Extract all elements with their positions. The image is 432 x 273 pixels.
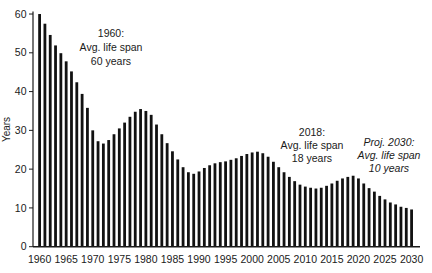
- bar-1997: [235, 158, 238, 246]
- x-tick-label-1975: 1975: [108, 253, 132, 265]
- bar-1965: [65, 61, 68, 246]
- bar-2015: [330, 183, 333, 246]
- bar-2001: [256, 152, 259, 247]
- bar-2018: [346, 177, 349, 247]
- annotation-proj-2030: Proj. 2030: Avg. life span 10 years: [358, 136, 421, 175]
- bar-2003: [267, 157, 270, 247]
- annotation-line: Avg. life span: [281, 139, 344, 152]
- annotation-line: 2018:: [281, 126, 344, 139]
- annotation-line: 18 years: [281, 152, 344, 165]
- bar-1999: [245, 154, 248, 247]
- bar-1978: [134, 112, 137, 247]
- bar-1994: [219, 162, 222, 247]
- bar-2027: [394, 204, 397, 246]
- bar-2009: [299, 185, 302, 247]
- annotation-line: 1960:: [80, 26, 143, 40]
- bar-1996: [230, 160, 233, 247]
- bar-1962: [49, 35, 52, 247]
- bar-2007: [288, 177, 291, 247]
- bar-2019: [352, 176, 355, 247]
- bar-1984: [166, 143, 169, 247]
- bar-2026: [389, 202, 392, 246]
- bar-1964: [59, 53, 62, 247]
- bar-2008: [293, 181, 296, 247]
- bar-1966: [70, 71, 73, 246]
- x-tick-label-2005: 2005: [267, 253, 291, 265]
- bar-1961: [44, 24, 47, 247]
- y-tick-label-0: 0: [21, 240, 27, 252]
- company-lifespan-bar-chart: 0102030405060196019651970197519801985199…: [0, 0, 432, 273]
- bar-1975: [118, 128, 121, 246]
- x-tick-label-1985: 1985: [161, 253, 185, 265]
- bar-1969: [86, 108, 89, 247]
- bar-2020: [357, 178, 360, 246]
- y-tick-label-20: 20: [15, 163, 27, 175]
- bar-2017: [341, 178, 344, 246]
- x-tick-label-1960: 1960: [28, 253, 52, 265]
- bar-1988: [187, 172, 190, 246]
- bar-1974: [113, 134, 116, 246]
- bar-1970: [91, 130, 94, 246]
- annotation-1960: 1960: Avg. life span 60 years: [80, 26, 143, 68]
- bar-2024: [378, 196, 381, 247]
- bar-2022: [368, 188, 371, 247]
- bar-2011: [309, 188, 312, 247]
- bar-1991: [203, 168, 206, 247]
- bar-1982: [155, 125, 158, 247]
- x-tick-label-2015: 2015: [320, 253, 344, 265]
- bar-2000: [251, 152, 254, 246]
- y-tick-label-10: 10: [15, 202, 27, 214]
- x-tick-label-2030: 2030: [400, 253, 424, 265]
- bar-1992: [208, 165, 211, 246]
- bar-2014: [325, 186, 328, 247]
- bar-1968: [81, 94, 84, 247]
- x-tick-label-1970: 1970: [81, 253, 105, 265]
- bar-2006: [283, 172, 286, 246]
- x-tick-label-2020: 2020: [347, 253, 371, 265]
- bar-1985: [171, 151, 174, 246]
- x-tick-label-2025: 2025: [373, 253, 397, 265]
- bar-1993: [214, 163, 217, 246]
- bar-2023: [373, 192, 376, 247]
- bar-2028: [400, 207, 403, 247]
- bar-1986: [176, 159, 179, 246]
- bar-2004: [272, 162, 275, 247]
- bar-1983: [160, 134, 163, 246]
- x-tick-label-2000: 2000: [240, 253, 264, 265]
- bar-1967: [75, 82, 78, 246]
- x-tick-label-1980: 1980: [134, 253, 158, 265]
- y-tick-label-30: 30: [15, 124, 27, 136]
- bar-2002: [261, 153, 264, 246]
- bar-2010: [304, 187, 307, 247]
- bar-1998: [240, 156, 243, 247]
- bar-1971: [97, 141, 100, 246]
- x-tick-label-1990: 1990: [187, 253, 211, 265]
- bar-2021: [362, 183, 365, 246]
- bar-1973: [107, 140, 110, 247]
- bar-1987: [182, 167, 185, 247]
- annotation-line: 10 years: [358, 162, 421, 175]
- bar-1995: [224, 161, 227, 246]
- x-tick-label-1965: 1965: [54, 253, 78, 265]
- bar-2025: [384, 199, 387, 246]
- y-tick-label-60: 60: [15, 8, 27, 20]
- y-axis-title: Years: [1, 100, 12, 160]
- bar-1963: [54, 45, 57, 246]
- bar-1960: [38, 14, 41, 247]
- bar-2012: [315, 189, 318, 247]
- y-tick-label-40: 40: [15, 85, 27, 97]
- bar-2030: [410, 209, 413, 246]
- bar-2029: [405, 208, 408, 247]
- annotation-line: Avg. life span: [358, 149, 421, 162]
- bar-2013: [320, 188, 323, 247]
- annotation-line: Avg. life span: [80, 40, 143, 54]
- bar-2005: [277, 167, 280, 247]
- bar-1979: [139, 109, 142, 247]
- bar-2016: [336, 181, 339, 247]
- x-tick-label-1995: 1995: [214, 253, 238, 265]
- bar-1990: [198, 171, 201, 246]
- bar-1981: [150, 115, 153, 247]
- y-tick-label-50: 50: [15, 46, 27, 58]
- annotation-2018: 2018: Avg. life span 18 years: [281, 126, 344, 165]
- bar-1977: [129, 117, 132, 247]
